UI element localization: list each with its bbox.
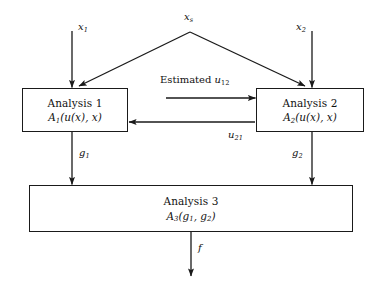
formula-subscript: 2 — [291, 117, 295, 125]
node-analysis-3-title: Analysis 3 — [163, 196, 218, 207]
label-g2: g2 — [292, 148, 303, 158]
label-x2-base: x — [296, 21, 302, 32]
label-x1-sub: 1 — [84, 26, 88, 34]
formula-args: (u(x), x) — [60, 111, 102, 123]
formula-subscript: 3 — [174, 215, 178, 223]
formula-subscript: 1 — [56, 117, 60, 125]
formula-symbol: A — [48, 111, 56, 123]
formula-arg2-subscript: 2 — [207, 215, 211, 223]
label-u21: u21 — [228, 130, 243, 140]
label-xs: xs — [184, 12, 193, 22]
label-x1-base: x — [78, 21, 84, 32]
node-analysis-2[interactable]: Analysis 2 A2(u(x), x) — [256, 88, 364, 132]
label-estimated-prefix: Estimated — [160, 74, 215, 85]
label-x2-sub: 2 — [302, 26, 306, 34]
node-analysis-3-formula: A3(g1, g2) — [166, 211, 215, 222]
label-u12-sub: 12 — [221, 79, 229, 87]
label-u21-sub: 21 — [234, 134, 242, 142]
node-analysis-1-formula: A1(u(x), x) — [48, 112, 102, 123]
flow-diagram: Analysis 1 A1(u(x), x) Analysis 2 A2(u(x… — [0, 0, 380, 293]
formula-args: (u(x), x) — [295, 111, 337, 123]
label-g1-sub: 1 — [85, 152, 89, 160]
label-g2-sub: 2 — [298, 152, 302, 160]
label-estimated-u12: Estimated u12 — [160, 75, 229, 85]
node-analysis-2-formula: A2(u(x), x) — [283, 112, 337, 123]
node-analysis-1[interactable]: Analysis 1 A1(u(x), x) — [22, 88, 128, 132]
formula-symbol: A — [166, 210, 174, 222]
node-analysis-1-title: Analysis 1 — [47, 98, 102, 109]
label-x1: x1 — [78, 22, 88, 32]
formula-arg1-subscript: 1 — [189, 215, 193, 223]
label-x2: x2 — [296, 22, 306, 32]
formula-args: (g — [178, 210, 189, 222]
label-f-base: f — [198, 242, 202, 253]
label-xs-base: x — [184, 11, 190, 22]
diagram-edges-layer — [0, 0, 380, 293]
node-analysis-2-title: Analysis 2 — [282, 98, 337, 109]
formula-args-2: , g — [194, 210, 207, 222]
label-f: f — [198, 243, 202, 253]
node-analysis-3[interactable]: Analysis 3 A3(g1, g2) — [29, 185, 353, 232]
label-g1: g1 — [79, 148, 90, 158]
label-xs-sub: s — [190, 16, 193, 24]
formula-symbol: A — [283, 111, 291, 123]
formula-args-3: ) — [211, 210, 215, 222]
